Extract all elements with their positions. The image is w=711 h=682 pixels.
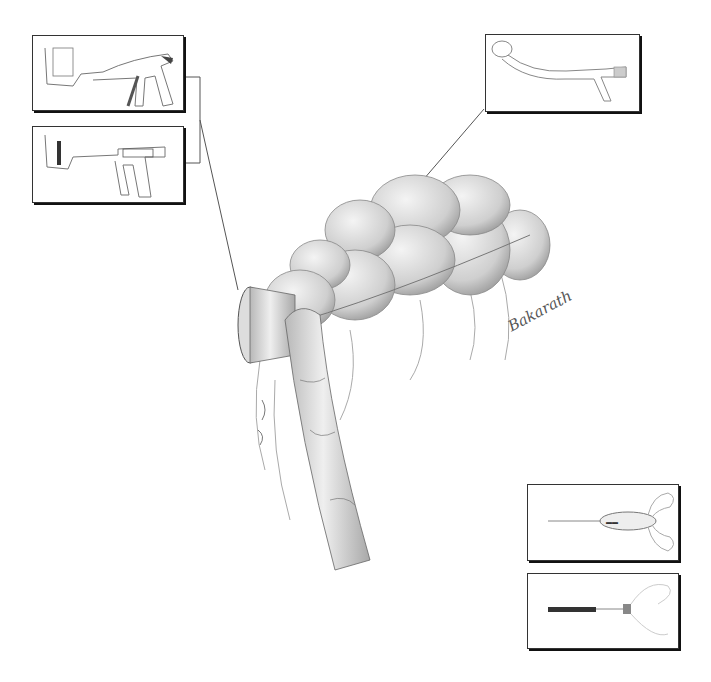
circular-stapler-icon: [486, 35, 639, 111]
scissor-instrument-panel: ▬▬: [527, 484, 679, 561]
purse-string-icon: [528, 574, 678, 648]
linear-stapler-bottom-panel: [32, 126, 184, 203]
purse-string-instrument-panel: [527, 573, 679, 649]
stapler-icon: [33, 127, 183, 202]
stapler-icon: [33, 36, 183, 110]
svg-text:▬▬: ▬▬: [606, 519, 618, 525]
curved-circular-stapler-panel: [485, 34, 640, 112]
scissor-icon: ▬▬: [528, 485, 678, 560]
linear-stapler-top-panel: [32, 35, 184, 111]
